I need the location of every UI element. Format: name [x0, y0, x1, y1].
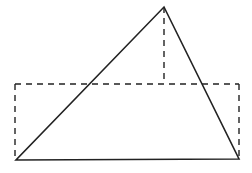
triangle-area-diagram: [0, 0, 252, 173]
background: [0, 0, 252, 173]
